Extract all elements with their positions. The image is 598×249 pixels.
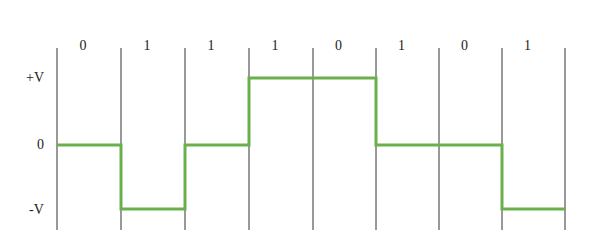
waveform-canvas [0,0,598,249]
bit-label: 0 [335,39,342,53]
bit-boundary-lines [57,48,565,230]
bit-label: 1 [398,39,405,53]
bit-label: 0 [461,39,468,53]
signal-waveform [57,78,565,209]
bit-label: 1 [208,39,215,53]
bit-label: 0 [80,39,87,53]
bit-label: 1 [272,39,279,53]
level-label-negative: -V [29,203,44,217]
bit-label: 1 [144,39,151,53]
bit-label: 1 [524,39,531,53]
level-label-zero: 0 [37,138,44,152]
line-coding-diagram: +V 0 -V 01110101 [0,0,598,249]
level-label-positive: +V [26,71,44,85]
